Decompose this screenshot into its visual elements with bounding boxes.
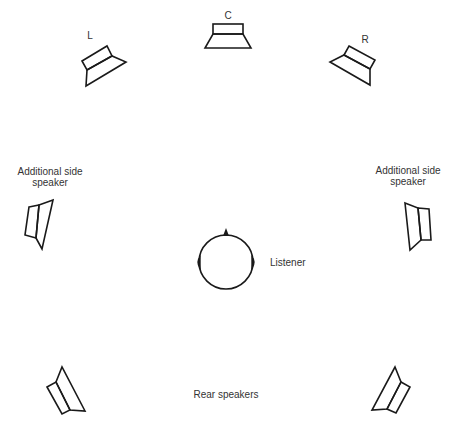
side-right-label-line1: Additional side: [375, 165, 440, 176]
speaker-horn-icon: [36, 200, 53, 249]
listener-label: Listener: [270, 257, 306, 268]
right-label: R: [361, 34, 368, 45]
front-right-speaker: [330, 46, 375, 85]
left-ear-icon: [198, 257, 200, 268]
speaker-layout-diagram: C L R Additional side speaker Additional…: [0, 0, 469, 431]
side-right-speaker: [405, 203, 431, 250]
rear-right-speaker: [372, 367, 410, 413]
left-label: L: [87, 30, 93, 41]
right-ear-icon: [252, 257, 254, 268]
front-left-speaker: [82, 46, 126, 86]
speaker-horn-icon: [330, 55, 370, 85]
center-speaker: [205, 24, 251, 48]
speaker-cabinet-icon: [213, 24, 243, 34]
side-left-speaker: [25, 200, 53, 249]
center-label: C: [224, 10, 231, 21]
speaker-horn-icon: [205, 34, 251, 48]
side-left-label-line1: Additional side: [17, 166, 82, 177]
rear-speakers-label: Rear speakers: [193, 389, 258, 400]
rear-left-speaker: [47, 367, 85, 414]
side-left-label-line2: speaker: [32, 177, 68, 188]
speaker-horn-icon: [86, 56, 126, 86]
side-right-label-line2: speaker: [390, 176, 426, 187]
listener-head: [198, 228, 254, 289]
speaker-horn-icon: [56, 367, 85, 411]
head-icon: [199, 235, 253, 289]
speaker-horn-icon: [372, 367, 401, 410]
speaker-horn-icon: [405, 203, 421, 250]
nose-icon: [223, 228, 229, 236]
